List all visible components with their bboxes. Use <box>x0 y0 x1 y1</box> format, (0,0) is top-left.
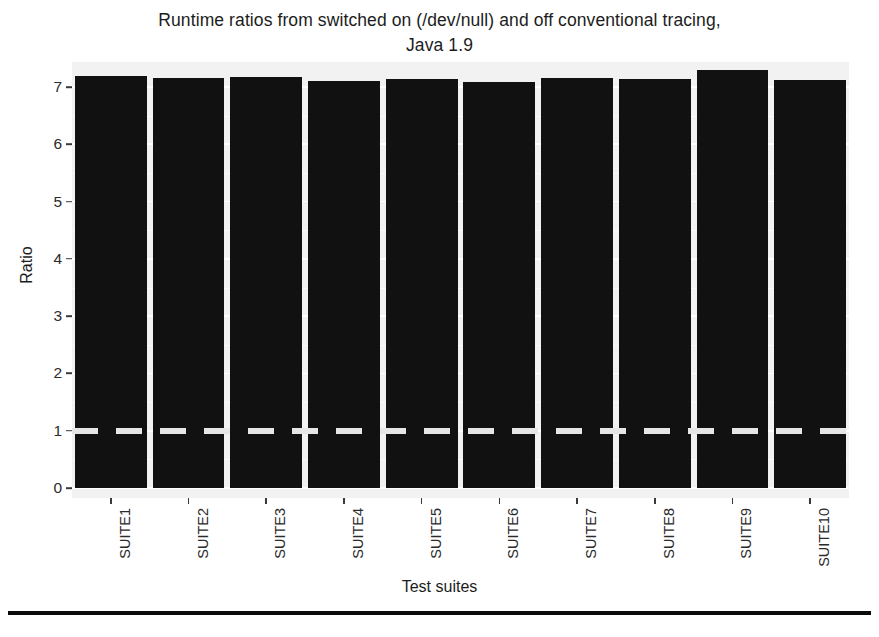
x-axis-title: Test suites <box>0 578 879 596</box>
bar[interactable] <box>697 70 769 488</box>
x-axis-tick-label: SUITE7 <box>583 508 599 559</box>
y-axis-tick-label: 0 <box>28 479 62 497</box>
x-axis-tick-mark <box>265 498 267 504</box>
x-axis-tick-mark <box>343 498 345 504</box>
y-axis-tick-label: 7 <box>28 78 62 96</box>
x-axis-tick-label: SUITE10 <box>816 508 832 567</box>
x-axis-tick-label: SUITE8 <box>661 508 677 559</box>
x-axis-tick-label: SUITE6 <box>505 508 521 559</box>
x-axis-tick-label: SUITE9 <box>738 508 754 559</box>
x-axis-tick-mark <box>499 498 501 504</box>
y-axis-tick-mark <box>66 315 72 317</box>
y-axis-tick-mark <box>66 373 72 375</box>
y-axis-tick-label: 4 <box>28 250 62 268</box>
y-axis-tick-mark <box>66 86 72 88</box>
x-axis-tick-label: SUITE3 <box>272 508 288 559</box>
y-axis-tick-mark <box>66 201 72 203</box>
y-axis-tick-label: 5 <box>28 193 62 211</box>
bar[interactable] <box>619 79 691 488</box>
y-axis-tick-mark <box>66 430 72 432</box>
footer-divider <box>8 611 871 615</box>
bar[interactable] <box>153 78 225 488</box>
x-axis-tick-mark <box>188 498 190 504</box>
y-axis-tick-label: 6 <box>28 135 62 153</box>
bar[interactable] <box>75 76 147 488</box>
y-axis-tick-label: 3 <box>28 307 62 325</box>
bar[interactable] <box>230 77 302 488</box>
x-axis-tick-label: SUITE5 <box>428 508 444 559</box>
x-axis-tick-label: SUITE2 <box>195 508 211 559</box>
y-axis-tick-mark <box>66 258 72 260</box>
x-axis-tick-mark <box>421 498 423 504</box>
x-axis-tick-mark <box>576 498 578 504</box>
x-axis-tick-label: SUITE4 <box>350 508 366 559</box>
x-axis-tick-label: SUITE1 <box>117 508 133 559</box>
y-axis-tick-labels: 01234567 <box>12 0 62 615</box>
x-axis-tick-mark <box>732 498 734 504</box>
bar[interactable] <box>386 79 458 488</box>
y-axis-tick-label: 2 <box>28 364 62 382</box>
reference-line <box>72 428 849 434</box>
y-axis-tick-mark <box>66 487 72 489</box>
x-axis-tick-mark <box>809 498 811 504</box>
bar[interactable] <box>541 78 613 488</box>
y-axis-tick-mark <box>66 143 72 145</box>
x-axis-tick-mark <box>110 498 112 504</box>
x-axis-tick-mark <box>654 498 656 504</box>
plot-panel <box>72 62 849 498</box>
bar-chart-figure: Ratio 01234567 SUITE1SUITE2SUITE3SUITE4S… <box>0 0 879 615</box>
y-axis-tick-label: 1 <box>28 422 62 440</box>
